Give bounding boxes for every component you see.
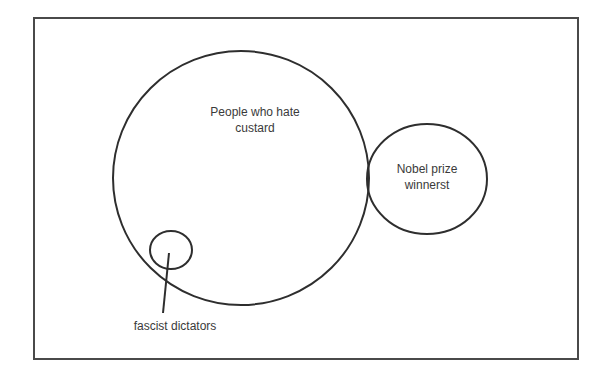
fascist-dictators-circle bbox=[150, 231, 192, 269]
nobel-winners-label-line2: winnerst bbox=[380, 177, 474, 193]
venn-diagram bbox=[0, 0, 608, 385]
custard-haters-circle bbox=[113, 51, 369, 305]
fascist-dictators-label: fascist dictators bbox=[110, 318, 240, 334]
custard-haters-label-line1: People who hate bbox=[180, 104, 330, 120]
custard-haters-label: People who hate custard bbox=[180, 104, 330, 136]
nobel-winners-label: Nobel prize winnerst bbox=[380, 161, 474, 193]
nobel-winners-label-line1: Nobel prize bbox=[380, 161, 474, 177]
custard-haters-label-line2: custard bbox=[180, 120, 330, 136]
